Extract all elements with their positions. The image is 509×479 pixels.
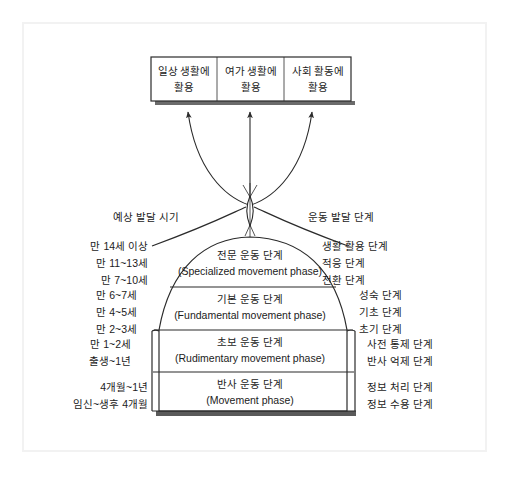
stage-reflexive-1: 정보 수용 단계: [367, 396, 433, 413]
age-rudimentary-1: 출생~1년: [89, 353, 131, 370]
phase-rudimentary-en: (Rudimentary movement phase): [146, 351, 354, 367]
outcome-cell-daily: 일상 생활에 활용: [151, 64, 217, 96]
stage-rudimentary-0: 사전 통제 단계: [367, 336, 433, 353]
stage-specialized-1: 적응 단계: [322, 255, 388, 272]
age-group-reflexive: 4개월~1년 임신~생후 4개월: [73, 379, 148, 413]
outcome-social-line1: 사회 활동에: [285, 64, 351, 80]
phase-rudimentary-ko: 초보 운동 단계: [146, 335, 354, 351]
outcome-leisure-line2: 활용: [218, 80, 284, 96]
outcome-daily-line2: 활용: [151, 80, 217, 96]
stage-fundamental-0: 성숙 단계: [359, 287, 402, 304]
outcome-daily-line1: 일상 생활에: [151, 64, 217, 80]
age-fundamental-0: 만 6~7세: [96, 287, 137, 304]
phase-fundamental-ko: 기본 운동 단계: [146, 292, 354, 308]
arrow-left-curve: [188, 112, 249, 205]
stage-rudimentary-1: 반사 억제 단계: [367, 353, 433, 370]
outcome-leisure-line1: 여가 생활에: [218, 64, 284, 80]
stage-group-fundamental: 성숙 단계 기초 단계 초기 단계: [359, 287, 402, 338]
outcome-cell-social: 사회 활동에 활용: [285, 64, 351, 96]
stage-group-specialized: 생활 활용 단계 적응 단계 전환 단계: [322, 238, 388, 289]
age-reflexive-1: 임신~생후 4개월: [73, 396, 148, 413]
column-heading-right: 운동 발달 단계: [308, 209, 374, 224]
age-rudimentary-0: 만 1~2세: [89, 336, 131, 353]
age-group-rudimentary: 만 1~2세 출생~1년: [89, 336, 131, 370]
outcome-social-line2: 활용: [285, 80, 351, 96]
age-group-specialized: 만 14세 이상 만 11~13세 만 7~10세: [90, 238, 148, 289]
age-reflexive-0: 4개월~1년: [73, 379, 148, 396]
neck-splay-bottom: [245, 225, 255, 238]
bottom-box-shadow: [156, 411, 356, 416]
stage-specialized-0: 생활 활용 단계: [322, 238, 388, 255]
age-specialized-1: 만 11~13세: [90, 255, 148, 272]
stage-reflexive-0: 정보 처리 단계: [367, 379, 433, 396]
column-heading-left: 예상 발달 시기: [113, 209, 179, 224]
neck-splay-top: [243, 183, 257, 197]
phase-rudimentary: 초보 운동 단계 (Rudimentary movement phase): [146, 335, 354, 367]
phase-reflexive: 반사 운동 단계 (Movement phase): [146, 377, 354, 409]
phase-fundamental-en: (Fundamental movement phase): [146, 308, 354, 324]
outcome-cell-leisure: 여가 생활에 활용: [218, 64, 284, 96]
diagram-canvas: 일상 생활에 활용 여가 생활에 활용 사회 활동에 활용 예상 발달 시기 운…: [0, 0, 509, 479]
age-specialized-0: 만 14세 이상: [90, 238, 148, 255]
arrow-right-curve: [251, 112, 312, 205]
phase-reflexive-en: (Movement phase): [146, 393, 354, 409]
age-fundamental-1: 만 4~5세: [96, 304, 137, 321]
stage-group-rudimentary: 사전 통제 단계 반사 억제 단계: [367, 336, 433, 370]
stage-group-reflexive: 정보 처리 단계 정보 수용 단계: [367, 379, 433, 413]
age-group-fundamental: 만 6~7세 만 4~5세 만 2~3세: [96, 287, 137, 338]
phase-reflexive-ko: 반사 운동 단계: [146, 377, 354, 393]
phase-fundamental: 기본 운동 단계 (Fundamental movement phase): [146, 292, 354, 324]
stage-fundamental-1: 기초 단계: [359, 304, 402, 321]
